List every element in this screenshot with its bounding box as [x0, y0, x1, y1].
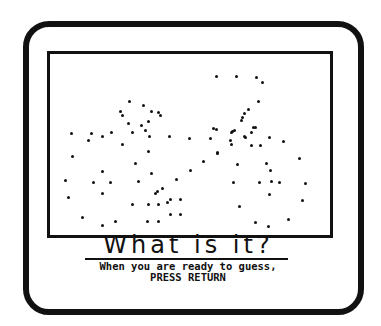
- picture-dot: [150, 172, 153, 175]
- picture-dot: [169, 213, 172, 216]
- picture-dot: [254, 221, 257, 224]
- picture-dot: [179, 198, 182, 201]
- picture-dot: [258, 181, 261, 184]
- picture-dot: [287, 218, 290, 221]
- picture-dot: [216, 151, 219, 154]
- picture-dot: [255, 76, 258, 79]
- picture-dot: [236, 163, 239, 166]
- picture-dot: [247, 108, 250, 111]
- picture-dot: [265, 162, 268, 165]
- picture-dot: [268, 136, 271, 139]
- picture-dot: [90, 132, 93, 135]
- picture-dot: [240, 119, 243, 122]
- picture-dot: [179, 213, 182, 216]
- picture-dot: [209, 137, 212, 140]
- press-return-prompt[interactable]: PRESS RETURN: [80, 272, 296, 283]
- picture-dot: [131, 131, 134, 134]
- picture-dot: [70, 132, 73, 135]
- picture-dot: [109, 181, 112, 184]
- picture-dot: [304, 182, 307, 185]
- picture-dot: [230, 131, 233, 134]
- picture-dot: [250, 144, 253, 147]
- picture-dot: [101, 135, 104, 138]
- picture-frame: [47, 51, 333, 238]
- picture-dot: [101, 170, 104, 173]
- picture-dot: [157, 203, 160, 206]
- picture-dot: [244, 136, 247, 139]
- picture-dot: [157, 220, 160, 223]
- picture-dot: [119, 110, 122, 113]
- picture-dot: [169, 198, 172, 201]
- picture-dot: [101, 192, 104, 195]
- picture-dot: [161, 187, 164, 190]
- picture-dot: [254, 126, 257, 129]
- picture-dot: [189, 169, 192, 172]
- picture-dot: [215, 128, 218, 131]
- picture-dot: [147, 120, 150, 123]
- picture-dot: [71, 155, 74, 158]
- picture-dot: [64, 179, 67, 182]
- picture-dot: [128, 100, 131, 103]
- picture-dot: [134, 162, 137, 165]
- picture-dot: [81, 216, 84, 219]
- picture-dot: [146, 220, 149, 223]
- picture-dot: [159, 114, 162, 117]
- picture-dot: [270, 180, 273, 183]
- picture-dot: [232, 181, 235, 184]
- picture-dot: [229, 139, 232, 142]
- picture-dot: [142, 104, 145, 107]
- picture-dot: [67, 196, 70, 199]
- picture-dot: [250, 131, 253, 134]
- picture-dot: [121, 114, 124, 117]
- picture-dot: [147, 203, 150, 206]
- picture-dot: [238, 205, 241, 208]
- picture-dot: [150, 110, 153, 113]
- picture-dot: [131, 203, 134, 206]
- picture-dot: [267, 225, 270, 228]
- picture-dot: [268, 193, 271, 196]
- picture-dot: [233, 129, 236, 132]
- picture-dot: [202, 160, 205, 163]
- picture-dot: [121, 143, 124, 146]
- picture-dot: [92, 181, 95, 184]
- picture-dot: [140, 124, 143, 127]
- picture-dot: [261, 81, 264, 84]
- picture-dot: [168, 135, 171, 138]
- picture-dot: [144, 129, 147, 132]
- picture-dot: [215, 75, 218, 78]
- picture-dot: [188, 137, 191, 140]
- picture-dot: [175, 178, 178, 181]
- picture-dot: [301, 199, 304, 202]
- picture-dot: [154, 192, 157, 195]
- picture-dot: [110, 131, 113, 134]
- picture-dot: [243, 112, 246, 115]
- picture-dot: [230, 143, 233, 146]
- picture-dot: [114, 220, 117, 223]
- picture-dot: [137, 180, 140, 183]
- picture-dot: [298, 157, 301, 160]
- question-title: What is it?: [85, 232, 288, 260]
- picture-dot: [282, 140, 285, 143]
- picture-dot: [127, 122, 130, 125]
- picture-dot: [148, 135, 151, 138]
- picture-dot: [87, 139, 90, 142]
- picture-dot: [235, 75, 238, 78]
- picture-dot: [101, 224, 104, 227]
- picture-dot: [259, 144, 262, 147]
- picture-dot: [147, 150, 150, 153]
- picture-dot: [269, 169, 272, 172]
- picture-dot: [257, 100, 260, 103]
- picture-dot: [166, 201, 169, 204]
- picture-dot: [278, 181, 281, 184]
